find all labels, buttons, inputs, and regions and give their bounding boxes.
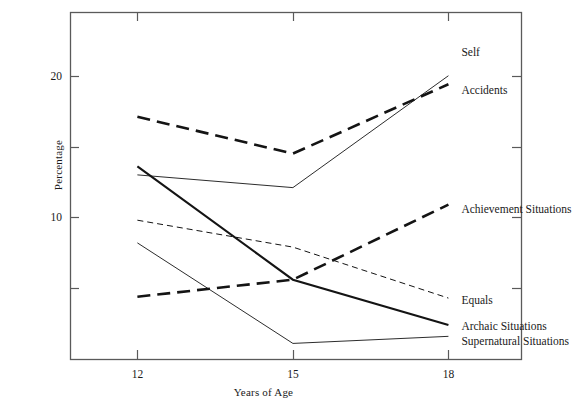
y-tick-label: 10 — [22, 211, 62, 223]
series-label-supernatural-situations: Supernatural Situations — [461, 335, 569, 347]
x-axis-label: Years of Age — [0, 386, 527, 398]
axis-frame — [71, 13, 522, 360]
series-label-achievement-situations: Achievement Situations — [461, 203, 571, 215]
series-line-accidents — [137, 84, 448, 153]
series-label-archaic-situations: Archaic Situations — [461, 320, 546, 332]
series-label-self: Self — [461, 46, 480, 58]
y-axis-label: Percentage — [52, 105, 64, 225]
series-line-archaic-situations — [137, 166, 448, 325]
x-tick-label: 12 — [132, 368, 144, 380]
series-line-equals — [137, 220, 448, 298]
series-line-supernatural-situations — [137, 243, 448, 344]
series-line-self — [137, 76, 448, 188]
x-tick-label: 18 — [443, 368, 455, 380]
series-label-equals: Equals — [461, 294, 492, 306]
series-label-accidents: Accidents — [461, 84, 507, 96]
y-tick-label: 20 — [22, 70, 62, 82]
x-tick-label: 15 — [287, 368, 299, 380]
